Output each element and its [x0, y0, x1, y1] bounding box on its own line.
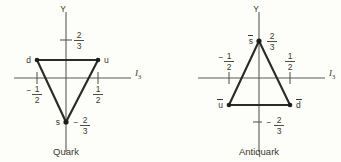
svg-text:1: 1	[35, 84, 40, 94]
svg-text:2: 2	[270, 31, 275, 41]
quark-caption: Quark	[53, 146, 79, 157]
svg-text:−: −	[27, 85, 32, 95]
svg-text:2: 2	[277, 115, 282, 125]
svg-text:2: 2	[288, 62, 293, 72]
quark-x-tick-label-minus-half: − 1 2	[27, 84, 42, 105]
svg-text:1: 1	[227, 51, 232, 61]
quark-x-tick-label-plus-half: 1 2	[93, 84, 103, 105]
antiquark-caption: Antiquark	[239, 146, 279, 157]
antiquark-vertex-label-d-bar: d	[296, 100, 302, 111]
quark-vertex-d	[35, 58, 40, 63]
quark-vertex-label-s: s	[56, 117, 60, 127]
quark-vertex-label-d: d	[26, 55, 31, 65]
panel-antiquark: Y I3 2 3 − 1 2 1 2 s	[198, 4, 335, 157]
antiquark-vertex-s-bar	[256, 38, 261, 43]
svg-text:d: d	[296, 100, 301, 110]
antiquark-y-tick-label-minus-two-thirds: − 2 3	[267, 115, 284, 136]
antiquark-y-tick-label-two-thirds: 2 3	[267, 31, 277, 52]
svg-text:3: 3	[270, 42, 275, 52]
panel-quark: Y I3 2 3 − 1 2 1 2 d u	[14, 4, 141, 157]
antiquark-vertex-u-bar	[227, 103, 232, 108]
antiquark-i3-axis-label: I3	[328, 68, 335, 80]
quark-y-tick-label-two-thirds: 2 3	[74, 30, 84, 51]
antiquark-vertex-label-u-bar: u	[217, 100, 223, 111]
antiquark-x-tick-label-plus-half: 1 2	[285, 51, 295, 72]
svg-text:3: 3	[77, 41, 82, 51]
svg-text:s: s	[249, 36, 253, 46]
quark-vertex-label-u: u	[104, 55, 109, 65]
figure-canvas: Y I3 2 3 − 1 2 1 2 d u	[0, 0, 341, 162]
svg-text:2: 2	[77, 30, 82, 40]
svg-text:3: 3	[83, 126, 88, 136]
svg-text:3: 3	[277, 126, 282, 136]
svg-text:−: −	[267, 117, 272, 127]
quark-vertex-tick-label-minus-two-thirds: − 2 3	[74, 115, 90, 136]
quark-y-axis-label: Y	[60, 4, 66, 14]
svg-text:2: 2	[83, 115, 88, 125]
svg-text:2: 2	[227, 62, 232, 72]
svg-text:1: 1	[96, 84, 101, 94]
quark-weight-diagram-figure: Y I3 2 3 − 1 2 1 2 d u	[0, 0, 341, 162]
svg-text:1: 1	[288, 51, 293, 61]
antiquark-y-axis-label: Y	[253, 4, 259, 14]
svg-text:−: −	[219, 52, 224, 62]
svg-text:u: u	[218, 100, 223, 110]
quark-vertex-u	[96, 58, 101, 63]
quark-triangle	[37, 60, 98, 122]
svg-text:2: 2	[35, 95, 40, 105]
svg-text:−: −	[74, 117, 79, 127]
quark-i3-axis-label: I3	[134, 68, 141, 80]
svg-text:2: 2	[96, 95, 101, 105]
quark-vertex-s	[63, 119, 68, 124]
antiquark-vertex-d-bar	[288, 103, 293, 108]
antiquark-vertex-label-s-bar: s	[248, 36, 253, 47]
antiquark-x-tick-label-minus-half: − 1 2	[219, 51, 234, 72]
